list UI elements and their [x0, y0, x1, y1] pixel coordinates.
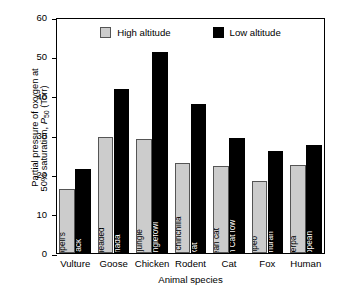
- x-axis-group-label: Human: [266, 258, 337, 269]
- bar-label: Ruppell's: [59, 232, 67, 253]
- bar: Culpeo: [252, 181, 268, 253]
- chart-figure: Partial pressure of oxygen at 50% satura…: [0, 0, 337, 301]
- bar-label: Andean Cat low: [229, 220, 237, 253]
- bar: Red jungle: [136, 139, 152, 253]
- bar: Bar-headed: [98, 137, 114, 253]
- legend-swatch-high-icon: [100, 27, 111, 38]
- y-axis-tick-label: 20: [27, 170, 47, 180]
- bar: Ruppell's: [59, 189, 75, 253]
- legend-label-low: Low altitude: [230, 27, 281, 38]
- y-axis-tick: [52, 137, 57, 138]
- y-axis-tick: [52, 255, 57, 256]
- legend-swatch-low-icon: [213, 27, 224, 38]
- bar: Andean cat: [213, 166, 229, 253]
- bar-label: Rat: [191, 243, 199, 253]
- bar-label: Red junglefowl: [152, 222, 160, 253]
- y-axis-tick-label: 50: [27, 52, 47, 62]
- y-axis-tick-label: 60: [27, 13, 47, 23]
- y-axis-tick: [52, 215, 57, 216]
- legend-label-high: High altitude: [117, 27, 170, 38]
- bar: Rat: [191, 104, 207, 253]
- y-axis-tick-label: 10: [27, 210, 47, 220]
- bar-label: Bar-headed: [98, 227, 106, 253]
- bar: Sechuran: [268, 151, 284, 253]
- y-axis-tick-label: 30: [27, 131, 47, 141]
- bar-label: Sherpa: [290, 236, 298, 253]
- y-axis-tick: [52, 97, 57, 98]
- bar: Andean chinchilla: [175, 163, 191, 253]
- bar: Sherpa: [290, 165, 306, 253]
- y-axis-symbol-p: P: [39, 118, 49, 124]
- y-axis-tick-label: 40: [27, 92, 47, 102]
- y-axis-symbol-subscript: 50: [43, 110, 50, 118]
- bar: Red junglefowl: [152, 52, 168, 253]
- bar-label: Red jungle: [136, 229, 144, 253]
- legend-item-low-altitude: Low altitude: [213, 27, 281, 38]
- bar: Canada: [114, 89, 130, 253]
- plot-area: High altitude Low altitude Ruppell'sBlac…: [56, 18, 325, 254]
- bar-label: Black: [75, 239, 83, 253]
- y-axis-tick: [52, 176, 57, 177]
- legend-item-high-altitude: High altitude: [100, 27, 170, 38]
- bar-label: European: [306, 231, 314, 253]
- bar-label: Sechuran: [268, 231, 276, 253]
- bar-label: Andean chinchilla: [175, 216, 183, 253]
- y-axis-tick: [52, 19, 57, 20]
- bar: European: [306, 145, 322, 253]
- x-axis-title: Animal species: [56, 274, 325, 285]
- bar-label: Canada: [114, 234, 122, 253]
- bar-label: Andean cat: [213, 228, 221, 253]
- bar: Andean Cat low: [229, 138, 245, 253]
- bar: Black: [75, 169, 91, 253]
- y-axis-tick: [52, 58, 57, 59]
- bar-label: Culpeo: [252, 236, 260, 253]
- chart-legend: High altitude Low altitude: [57, 27, 324, 38]
